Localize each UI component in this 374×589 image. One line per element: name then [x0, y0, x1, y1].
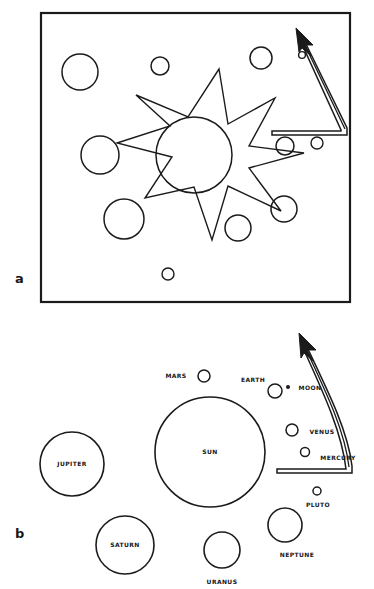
sun-circle-a: [156, 117, 232, 193]
panel-a-drawing: [0, 0, 374, 320]
planet-circle-venus-a: [276, 137, 294, 155]
planet-circle-jupiter-a: [62, 54, 98, 90]
panel-a: a: [0, 0, 374, 320]
planet-circle-neptune-a: [225, 215, 251, 241]
planet-circle-moon-a: [299, 52, 306, 59]
star-burst-a: [117, 69, 304, 240]
panel-b: SUN MERCURY VENUS EARTH MOON MARS JUPITE…: [0, 320, 374, 589]
moon-dot-b: [286, 385, 290, 389]
planet-circle-extra-a: [271, 196, 297, 222]
planet-circle-earth-a: [250, 47, 272, 69]
figure-root: a SUN MERCURY VENUS EARTH MOON: [0, 0, 374, 589]
venus-circle-b: [286, 424, 298, 436]
label-uranus: URANUS: [207, 579, 238, 585]
planet-circle-pluto-a: [162, 268, 174, 280]
label-neptune: NEPTUNE: [280, 552, 314, 558]
planet-circle-saturn-a: [81, 136, 119, 174]
label-venus: VENUS: [310, 429, 335, 435]
label-pluto: PLUTO: [306, 502, 330, 508]
planet-circle-mercury-a: [311, 137, 323, 149]
pluto-circle-b: [313, 487, 321, 495]
label-moon: MOON: [299, 385, 322, 391]
label-mars: MARS: [165, 373, 186, 379]
planet-circle-uranus-a: [104, 199, 144, 239]
panel-a-letter: a: [15, 272, 24, 285]
earth-circle-b: [268, 384, 282, 398]
neptune-circle-b: [268, 508, 302, 542]
mars-circle-b: [198, 370, 210, 382]
mercury-circle-b: [301, 448, 310, 457]
planet-circle-mars-a: [151, 57, 169, 75]
uranus-circle-b: [204, 532, 240, 568]
label-jupiter: JUPITER: [57, 461, 86, 467]
panel-b-letter: b: [15, 527, 24, 540]
label-earth: EARTH: [241, 377, 265, 383]
panel-b-drawing: [0, 320, 374, 589]
label-mercury: MERCURY: [320, 455, 355, 461]
label-saturn: SATURN: [110, 542, 140, 548]
label-sun: SUN: [202, 449, 217, 455]
